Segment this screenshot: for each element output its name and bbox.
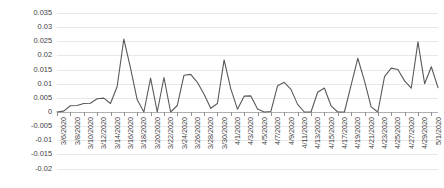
x-axis-tick-mark — [244, 112, 245, 116]
x-axis-tick-label: 5/1/2020 — [435, 117, 443, 145]
y-axis-tick-label: 0.005 — [2, 94, 52, 102]
y-axis-tick-label: 0.035 — [2, 9, 52, 17]
x-axis-tick-mark — [70, 112, 71, 116]
x-axis-tick-mark — [391, 112, 392, 116]
x-axis-tick-mark — [378, 112, 379, 116]
x-axis-tick-label: 3/26/2020 — [194, 117, 202, 149]
x-axis-tick-label: 4/7/2020 — [274, 117, 282, 145]
x-axis-tick-label: 4/17/2020 — [341, 117, 349, 149]
x-axis-tick-mark — [324, 112, 325, 116]
x-axis-tick-label: 4/19/2020 — [354, 117, 362, 149]
y-axis-tick-label: 0.025 — [2, 37, 52, 45]
x-axis-tick-label: 3/8/2020 — [74, 117, 82, 145]
y-axis-tick-label: -0.01 — [2, 136, 52, 144]
x-axis: 3/6/20203/8/20203/10/20203/12/20203/14/2… — [57, 112, 438, 188]
x-axis-tick-mark — [311, 112, 312, 116]
series-polyline — [57, 39, 438, 112]
line-chart: 0.0350.030.0250.020.0150.010.0050-0.005-… — [0, 0, 444, 188]
x-axis-tick-label: 4/1/2020 — [234, 117, 242, 145]
x-axis-tick-label: 3/30/2020 — [221, 117, 229, 149]
x-axis-tick-mark — [271, 112, 272, 116]
y-axis-tick-label: 0 — [2, 108, 52, 116]
x-axis-tick-label: 4/13/2020 — [314, 117, 322, 149]
y-axis-tick-label: 0.03 — [2, 23, 52, 31]
x-axis-tick-label: 4/29/2020 — [421, 117, 429, 149]
y-axis-tick-label: -0.015 — [2, 150, 52, 158]
x-axis-tick-label: 3/24/2020 — [181, 117, 189, 149]
x-axis-tick-mark — [151, 112, 152, 116]
x-axis-tick-label: 3/16/2020 — [127, 117, 135, 149]
x-axis-tick-mark — [191, 112, 192, 116]
x-axis-tick-mark — [204, 112, 205, 116]
y-axis-tick-label: 0.01 — [2, 80, 52, 88]
x-axis-tick-mark — [231, 112, 232, 116]
x-axis-tick-label: 3/20/2020 — [154, 117, 162, 149]
y-axis: 0.0350.030.0250.020.0150.010.0050-0.005-… — [0, 0, 52, 188]
x-axis-tick-mark — [217, 112, 218, 116]
x-axis-tick-mark — [97, 112, 98, 116]
x-axis-tick-mark — [284, 112, 285, 116]
x-axis-tick-mark — [298, 112, 299, 116]
x-axis-tick-mark — [258, 112, 259, 116]
x-axis-tick-mark — [164, 112, 165, 116]
x-axis-tick-label: 4/15/2020 — [328, 117, 336, 149]
x-axis-tick-mark — [84, 112, 85, 116]
x-axis-tick-label: 4/27/2020 — [408, 117, 416, 149]
x-axis-tick-label: 3/28/2020 — [207, 117, 215, 149]
x-axis-tick-label: 4/5/2020 — [261, 117, 269, 145]
x-axis-tick-label: 3/18/2020 — [140, 117, 148, 149]
x-axis-tick-mark — [431, 112, 432, 116]
x-axis-tick-mark — [338, 112, 339, 116]
y-axis-tick-label: -0.02 — [2, 165, 52, 173]
x-axis-tick-mark — [177, 112, 178, 116]
x-axis-tick-label: 4/23/2020 — [381, 117, 389, 149]
y-axis-tick-label: 0.015 — [2, 66, 52, 74]
x-axis-tick-mark — [111, 112, 112, 116]
x-axis-tick-label: 4/3/2020 — [247, 117, 255, 145]
x-axis-tick-label: 3/14/2020 — [114, 117, 122, 149]
x-axis-tick-mark — [405, 112, 406, 116]
x-axis-tick-label: 4/21/2020 — [368, 117, 376, 149]
x-axis-tick-mark — [57, 112, 58, 116]
x-axis-tick-mark — [351, 112, 352, 116]
x-axis-tick-label: 4/11/2020 — [301, 117, 309, 148]
x-axis-tick-mark — [365, 112, 366, 116]
x-axis-tick-label: 3/6/2020 — [60, 117, 68, 145]
y-axis-tick-label: -0.005 — [2, 122, 52, 130]
x-axis-tick-label: 4/9/2020 — [288, 117, 296, 145]
x-axis-tick-label: 4/25/2020 — [394, 117, 402, 149]
x-axis-tick-mark — [418, 112, 419, 116]
x-axis-tick-mark — [124, 112, 125, 116]
x-axis-tick-mark — [137, 112, 138, 116]
x-axis-tick-label: 3/22/2020 — [167, 117, 175, 149]
x-axis-tick-label: 3/10/2020 — [87, 117, 95, 149]
y-axis-tick-label: 0.02 — [2, 51, 52, 59]
x-axis-tick-label: 3/12/2020 — [100, 117, 108, 149]
